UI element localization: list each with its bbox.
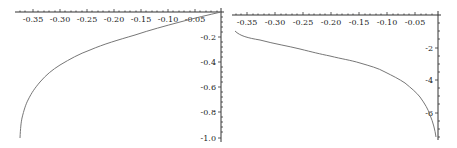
right-plot: -0.35 -0.30 -0.25 -0.20 -0.15 -0.10 -0.0…: [232, 11, 441, 140]
left-y-label: -1.0: [201, 134, 216, 143]
right-x-labels: -0.35 -0.30 -0.25 -0.20 -0.15 -0.10 -0.0…: [237, 18, 426, 27]
left-y-label: -0.4: [201, 58, 216, 67]
left-y-labels: -0.2 -0.4 -0.6 -0.8 -1.0: [201, 33, 216, 143]
left-x-label: -0.20: [104, 15, 125, 24]
right-x-label: -0.15: [349, 18, 370, 27]
left-curve: [20, 12, 221, 138]
left-x-label: -0.15: [131, 15, 152, 24]
right-y-label: -4: [425, 76, 433, 85]
left-y-label: -0.8: [201, 108, 216, 117]
left-plot: -0.35 -0.30 -0.25 -0.20 -0.15 -0.10 -0.0…: [15, 8, 224, 143]
left-y-label: -0.2: [201, 33, 216, 42]
right-x-label: -0.35: [237, 18, 258, 27]
right-x-label: -0.20: [321, 18, 342, 27]
left-x-label: -0.10: [158, 15, 179, 24]
left-x-label: -0.25: [77, 15, 98, 24]
figure: -0.35 -0.30 -0.25 -0.20 -0.15 -0.10 -0.0…: [0, 0, 457, 148]
right-y-label: -2: [425, 44, 433, 53]
right-x-label: -0.05: [405, 18, 426, 27]
left-x-label: -0.30: [50, 15, 71, 24]
right-x-label: -0.25: [293, 18, 314, 27]
right-x-label: -0.10: [377, 18, 398, 27]
left-y-label: -0.6: [201, 83, 216, 92]
left-x-label: -0.35: [23, 15, 44, 24]
right-curve: [235, 31, 436, 137]
right-x-label: -0.30: [265, 18, 286, 27]
